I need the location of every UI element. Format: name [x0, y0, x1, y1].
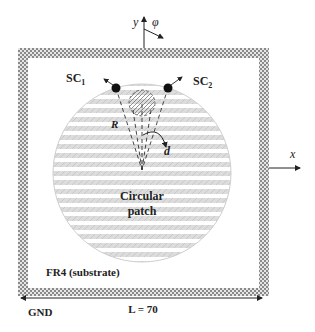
radius-label: R [110, 118, 118, 130]
antenna-diagram: y φ x SC1 SC2 R d Circular patch FR4 (su… [0, 0, 315, 332]
dimension-label: L = 70 [128, 303, 158, 315]
ground-label: GND [28, 306, 53, 318]
patch-label-line1: Circular [120, 189, 164, 203]
phi-arrow [144, 29, 163, 38]
x-axis-label: x [289, 147, 296, 161]
phi-label: φ [152, 15, 159, 29]
patch-label-line2: patch [128, 204, 157, 218]
offset-d-label: d [164, 144, 171, 158]
y-axis-label: y [132, 15, 139, 29]
substrate-label: FR4 (substrate) [46, 266, 120, 279]
